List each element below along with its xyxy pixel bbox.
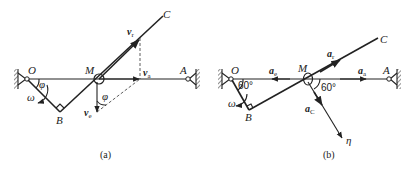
- label-A-b: A: [382, 64, 390, 76]
- label-O: O: [28, 64, 36, 76]
- panel-b: O M A B C η 60° 60° ω ar ae aa aC (b): [218, 33, 401, 161]
- vector-a-c-mid-arrow: [314, 92, 322, 105]
- caption-a: (a): [100, 149, 111, 161]
- caption-b: (b): [323, 149, 335, 161]
- label-A: A: [179, 64, 187, 76]
- label-C: C: [163, 8, 171, 20]
- label-B: B: [56, 114, 63, 126]
- label-phi-m: φ: [102, 90, 108, 102]
- label-a-r: ar: [327, 48, 335, 61]
- label-a-a: aa: [358, 65, 367, 78]
- right-angle-mark: [56, 104, 64, 108]
- label-60-o: 60°: [238, 80, 253, 91]
- label-v-r: vr: [127, 26, 134, 39]
- label-v-e: ve: [84, 107, 92, 120]
- label-a-e: ae: [269, 65, 277, 78]
- fixed-support-right: [186, 69, 200, 89]
- label-a-c: aC: [305, 103, 315, 116]
- fixed-support-left: [14, 69, 29, 89]
- label-60-m: 60°: [321, 82, 336, 93]
- vector-a-r: [320, 60, 340, 72]
- label-B-b: B: [245, 111, 252, 123]
- label-O-b: O: [231, 64, 239, 76]
- label-omega-b: ω: [228, 97, 236, 109]
- label-eta: η: [346, 134, 351, 146]
- vector-v-r: [99, 40, 139, 79]
- rod-BC: [60, 16, 163, 112]
- label-omega: ω: [27, 91, 35, 103]
- label-C-b: C: [380, 33, 388, 45]
- label-M: M: [84, 64, 95, 76]
- label-phi-o: φ: [39, 78, 45, 90]
- panel-a: O M A B C φ φ ω vr va ve (a): [14, 8, 200, 161]
- angle-arc-60-m: [314, 79, 320, 89]
- label-M-b: M: [297, 62, 308, 74]
- label-v-a: va: [143, 67, 151, 80]
- mechanism-diagram: O M A B C φ φ ω vr va ve (a): [0, 0, 411, 174]
